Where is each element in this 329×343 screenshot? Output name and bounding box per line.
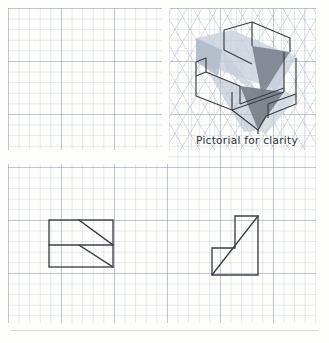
worksheet-page: Pictorial for clarity — [0, 0, 329, 343]
side-view — [212, 216, 258, 275]
front-view-diagonal-upper — [79, 220, 113, 245]
front-view-outline — [49, 220, 113, 267]
front-view — [49, 220, 113, 267]
footer-rule — [10, 330, 319, 331]
front-view-diagonal-lower — [79, 245, 113, 267]
orthographic-views — [0, 0, 329, 343]
